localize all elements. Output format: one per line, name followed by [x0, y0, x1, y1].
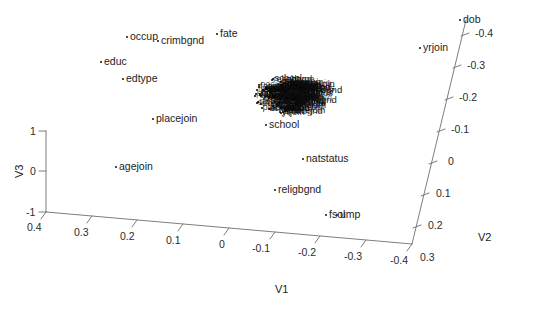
- data-point-dot: [302, 158, 304, 160]
- v2-tick-6: 0.2: [428, 220, 443, 231]
- v1-tick-7: -0.3: [344, 251, 362, 262]
- v2-tick-3: -0.1: [451, 124, 469, 135]
- v1-tick-5: -0.1: [252, 243, 270, 254]
- data-point-dot: [216, 33, 218, 35]
- point-label-agejoin: agejoin: [119, 161, 153, 172]
- point-label-edtype: edtype: [126, 73, 158, 84]
- scatterplot3d-figure: 1 0 -1 V3 0.4 0.3 0.2 0.1 0 -0.1 -0.2 -0…: [0, 0, 543, 311]
- point-label-crimbgnd: crimbgnd: [161, 35, 204, 46]
- v3-axis-title: V3: [14, 165, 25, 178]
- point-label-occup: occup: [130, 31, 158, 42]
- data-point-dot: [419, 47, 421, 49]
- data-point-dot: [274, 189, 276, 191]
- v3-tick-0: 0: [30, 166, 36, 177]
- v2-tick-1: -0.3: [467, 60, 485, 71]
- data-point-dot: [126, 36, 128, 38]
- point-label-placejoin: placejoin: [156, 113, 197, 124]
- data-point-dot: [459, 19, 461, 21]
- data-point-dot: [115, 166, 117, 168]
- point-label-school: school: [269, 119, 299, 130]
- v1-tick-1: 0.3: [74, 227, 89, 238]
- point-label-fate: fate: [220, 28, 238, 39]
- v2-tick-0: -0.4: [475, 28, 493, 39]
- point-label-yrjoin: yrjoin: [423, 42, 448, 53]
- v1-tick-8: -0.4: [390, 255, 408, 266]
- v1-tick-3: 0.1: [166, 235, 181, 246]
- v2-tick-4: 0: [448, 156, 454, 167]
- data-point-dot: [100, 61, 102, 63]
- v1-tick-4: 0: [219, 239, 225, 250]
- point-label-natstatus: natstatus: [306, 153, 349, 164]
- v1-tick-0: 0.4: [27, 222, 42, 233]
- v1-axis-title: V1: [275, 284, 288, 295]
- point-label-ump: ump: [340, 209, 360, 220]
- v2-axis-title: V2: [478, 232, 491, 243]
- v2-tick-2: -0.2: [459, 92, 477, 103]
- v2-tick-7: 0.3: [420, 252, 435, 263]
- point-label-dob: dob: [463, 14, 481, 25]
- data-point-dot: [325, 214, 327, 216]
- v2-tick-5: 0.1: [436, 188, 451, 199]
- v3-tick-m1: -1: [26, 207, 35, 218]
- data-point-dot: [152, 118, 154, 120]
- axis-lines: [0, 0, 543, 311]
- data-point-dot: [336, 214, 338, 216]
- v1-tick-2: 0.2: [120, 231, 135, 242]
- point-label-educ: educ: [104, 56, 127, 67]
- data-point-dot: [122, 78, 124, 80]
- data-point-dot: [157, 40, 159, 42]
- point-label-religbgnd: religbgnd: [278, 184, 321, 195]
- data-point-dot: [265, 124, 267, 126]
- v3-tick-1: 1: [30, 126, 36, 137]
- v1-tick-6: -0.2: [298, 247, 316, 258]
